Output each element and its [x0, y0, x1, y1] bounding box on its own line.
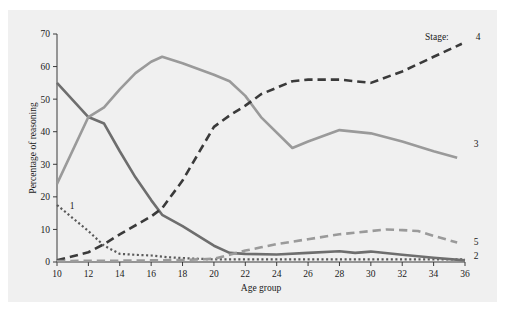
series-line-1 [57, 205, 465, 259]
x-tick-label: 22 [241, 269, 251, 279]
series-line-5 [57, 229, 457, 261]
series-line-3 [57, 57, 457, 184]
x-axis-tick-labels: 1012141618202224262830323436 [52, 269, 470, 279]
x-tick-label: 34 [429, 269, 439, 279]
x-tick-label: 10 [52, 269, 62, 279]
y-tick-label: 20 [41, 192, 51, 202]
series-label-2: 2 [474, 251, 479, 261]
line-chart: 010203040506070 101214161820222426283032… [0, 0, 505, 311]
series-label-1: 1 [70, 201, 75, 211]
y-tick-label: 70 [41, 29, 51, 39]
y-tick-label: 60 [41, 62, 51, 72]
y-tick-label: 10 [41, 225, 51, 235]
x-tick-label: 30 [366, 269, 376, 279]
y-tick-label: 30 [41, 160, 51, 170]
x-tick-label: 16 [146, 269, 156, 279]
y-tick-label: 50 [41, 95, 51, 105]
series-line-4 [57, 44, 462, 261]
series-label-4: 4 [476, 32, 481, 42]
x-tick-label: 24 [272, 269, 282, 279]
y-tick-label: 40 [41, 127, 51, 137]
y-axis-ticks [53, 34, 57, 262]
x-tick-label: 32 [397, 269, 407, 279]
series-label-5: 5 [474, 237, 479, 247]
x-tick-label: 14 [115, 269, 125, 279]
data-series-group [57, 44, 465, 261]
x-tick-label: 28 [335, 269, 345, 279]
series-label-3: 3 [474, 139, 479, 149]
x-tick-label: 20 [209, 269, 219, 279]
y-axis-tick-labels: 010203040506070 [41, 29, 51, 267]
x-tick-label: 12 [84, 269, 94, 279]
x-axis-title: Age group [241, 283, 282, 293]
x-tick-label: 26 [303, 269, 313, 279]
legend-title: Stage: [425, 32, 449, 42]
x-tick-label: 18 [178, 269, 188, 279]
series-line-2 [57, 83, 465, 261]
x-tick-label: 36 [460, 269, 470, 279]
y-tick-label: 0 [45, 257, 50, 267]
x-axis-ticks [57, 262, 465, 266]
y-axis-title: Percentage of reasoning [28, 102, 38, 194]
